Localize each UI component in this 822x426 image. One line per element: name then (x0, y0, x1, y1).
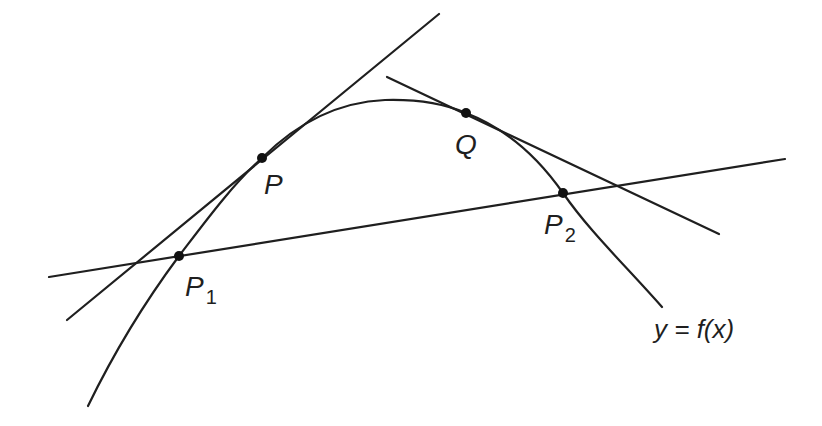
label-P2: P2 (544, 211, 576, 239)
point-P1 (174, 251, 184, 261)
label-P2-subscript: 2 (565, 224, 576, 246)
point-P2 (558, 188, 568, 198)
label-P: P (264, 171, 283, 199)
label-P1-subscript: 1 (206, 286, 217, 308)
curve-equation-text: y = f(x) (654, 314, 734, 344)
label-Q-text: Q (455, 129, 477, 160)
diagram-canvas: P Q P1 P2 y = f(x) (0, 0, 822, 426)
point-Q (461, 108, 471, 118)
label-P2-text: P (544, 209, 563, 240)
secant-line-P1-P2 (49, 159, 785, 277)
curve-y-equals-f-of-x (88, 100, 662, 406)
label-P1: P1 (185, 273, 217, 301)
point-P (257, 153, 267, 163)
label-P-text: P (264, 169, 283, 200)
curve-equation-label: y = f(x) (654, 316, 734, 342)
label-P1-text: P (185, 271, 204, 302)
diagram-svg (0, 0, 822, 426)
label-Q: Q (455, 131, 477, 159)
